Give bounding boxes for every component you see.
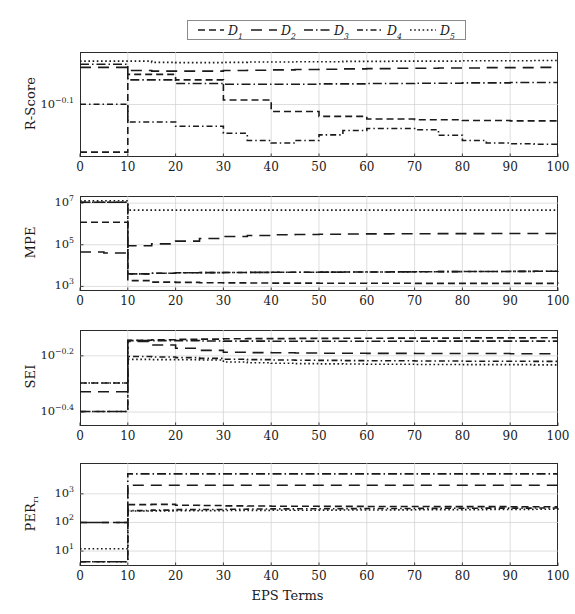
xtick-label: 30 (203, 294, 243, 308)
legend: D1D2D3D4D5 (187, 20, 466, 40)
plot-frame-r-score (80, 52, 558, 157)
legend-swatch-D5 (410, 25, 436, 35)
ylabel-r-score: R-Score (23, 67, 38, 139)
xtick-label: 10 (108, 429, 148, 443)
legend-swatch-D1 (198, 25, 224, 35)
xtick-label: 70 (395, 569, 435, 583)
xtick-label: 90 (490, 569, 530, 583)
xtick-label: 100 (538, 429, 575, 443)
legend-item-D4[interactable]: D4 (353, 23, 406, 38)
xtick-label: 40 (251, 160, 291, 174)
xtick-label: 40 (251, 569, 291, 583)
legend-item-D3[interactable]: D3 (300, 23, 353, 38)
ytick-label: 101 (32, 543, 74, 557)
xtick-label: 70 (395, 160, 435, 174)
xtick-label: 20 (156, 294, 196, 308)
xtick-label: 40 (251, 429, 291, 443)
xtick-label: 20 (156, 160, 196, 174)
plot-frame-sei (80, 330, 558, 426)
plot-frame-mpe (80, 196, 558, 291)
xtick-label: 100 (538, 569, 575, 583)
xtick-label: 80 (442, 429, 482, 443)
plot-frame-per (80, 463, 558, 566)
xtick-label: 100 (538, 294, 575, 308)
ytick-label: 10−0.1 (32, 97, 74, 111)
xtick-label: 10 (108, 160, 148, 174)
xtick-label: 0 (60, 569, 100, 583)
xtick-label: 30 (203, 160, 243, 174)
xtick-label: 50 (299, 569, 339, 583)
xtick-label: 10 (108, 569, 148, 583)
xtick-label: 80 (442, 569, 482, 583)
xtick-label: 70 (395, 294, 435, 308)
xtick-label: 60 (347, 294, 387, 308)
legend-label-D2: D2 (281, 23, 296, 38)
ylabel-per: PERr₁ (23, 477, 38, 549)
xtick-label: 20 (156, 429, 196, 443)
legend-item-D2[interactable]: D2 (247, 23, 300, 38)
xtick-label: 30 (203, 429, 243, 443)
ylabel-mpe: MPE (23, 206, 38, 278)
xaxis-title: EPS Terms (0, 588, 575, 603)
xtick-label: 80 (442, 160, 482, 174)
xtick-label: 90 (490, 160, 530, 174)
legend-label-D1: D1 (228, 23, 243, 38)
legend-item-D1[interactable]: D1 (194, 23, 247, 38)
legend-label-D4: D4 (387, 23, 402, 38)
xtick-label: 60 (347, 569, 387, 583)
xtick-label: 0 (60, 160, 100, 174)
xtick-label: 10 (108, 294, 148, 308)
figure-root: 010203040506070809010010−0.1R-Score01020… (0, 0, 575, 614)
xtick-label: 60 (347, 429, 387, 443)
legend-swatch-D3 (304, 25, 330, 35)
xtick-label: 40 (251, 294, 291, 308)
xtick-label: 70 (395, 429, 435, 443)
xtick-label: 90 (490, 429, 530, 443)
ytick-label: 10−0.2 (32, 348, 74, 362)
ytick-label: 107 (32, 195, 74, 209)
xtick-label: 20 (156, 569, 196, 583)
xtick-label: 50 (299, 160, 339, 174)
xtick-label: 0 (60, 294, 100, 308)
ytick-label: 10−0.4 (32, 404, 74, 418)
ytick-label: 102 (32, 514, 74, 528)
xtick-label: 50 (299, 429, 339, 443)
xtick-label: 100 (538, 160, 575, 174)
legend-swatch-D4 (357, 25, 383, 35)
xtick-label: 50 (299, 294, 339, 308)
legend-swatch-D2 (251, 25, 277, 35)
xtick-label: 30 (203, 569, 243, 583)
xtick-label: 90 (490, 294, 530, 308)
ytick-label: 105 (32, 237, 74, 251)
xtick-label: 0 (60, 429, 100, 443)
legend-label-D5: D5 (440, 23, 455, 38)
xtick-label: 60 (347, 160, 387, 174)
legend-label-D3: D3 (334, 23, 349, 38)
xtick-label: 80 (442, 294, 482, 308)
ylabel-sei: SEI (23, 341, 38, 413)
ytick-label: 103 (32, 278, 74, 292)
legend-item-D5[interactable]: D5 (406, 23, 459, 38)
